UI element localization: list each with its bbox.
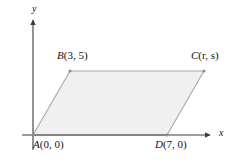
x-axis-label: x [219, 128, 223, 138]
vertex-dot-c [202, 69, 205, 72]
vertex-dot-a [31, 133, 34, 136]
y-axis-label: y [32, 4, 36, 14]
coordinate-geometry-figure: B(3, 5) C(r, s) A(0, 0) D(7, 0) y x [0, 0, 235, 163]
point-label-c: C(r, s) [191, 50, 219, 61]
point-label-b-name: B [57, 49, 64, 61]
point-label-d: D(7, 0) [155, 139, 187, 150]
point-label-a-name: A [33, 138, 40, 150]
point-label-b-coords: (3, 5) [64, 49, 88, 61]
point-label-d-coords: (7, 0) [163, 138, 187, 150]
point-label-d-name: D [155, 138, 163, 150]
point-label-b: B(3, 5) [57, 50, 88, 61]
vertex-dot-d [165, 133, 168, 136]
point-label-a: A(0, 0) [33, 139, 64, 150]
vertex-dot-b [68, 69, 71, 72]
parallelogram-shape [33, 71, 204, 135]
point-label-c-coords: (r, s) [198, 49, 218, 61]
point-label-a-coords: (0, 0) [40, 138, 64, 150]
